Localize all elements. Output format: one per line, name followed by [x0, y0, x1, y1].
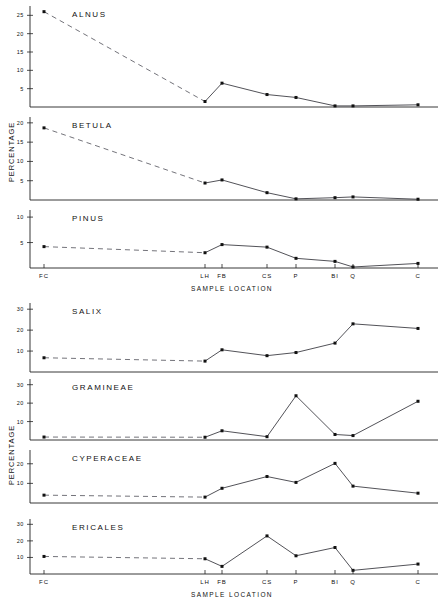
y-tick-label: 10	[17, 67, 24, 73]
data-point-marker	[204, 251, 207, 254]
data-point-marker	[417, 563, 420, 566]
x-tick-label: FB	[217, 579, 226, 585]
chart-canvas: 510152025ALNUS5101520BETULA510PINUS10203…	[0, 0, 442, 608]
data-point-marker	[43, 10, 46, 13]
panel-pinus: 510PINUS	[17, 210, 438, 268]
data-point-marker	[352, 195, 355, 198]
series-line	[205, 463, 418, 497]
data-point-marker	[352, 485, 355, 488]
y-tick-label: 20	[17, 538, 24, 544]
data-point-marker	[204, 496, 207, 499]
y-tick-label: 10	[17, 158, 24, 164]
panel-title: ERICALES	[72, 523, 124, 532]
panel-betula: 5101520BETULA	[17, 117, 438, 201]
data-point-marker	[266, 435, 269, 438]
data-point-marker	[266, 475, 269, 478]
data-point-marker	[43, 555, 46, 558]
y-tick-label: 5	[20, 86, 24, 92]
x-tick-label: BI	[331, 579, 338, 585]
y-tick-label: 10	[17, 348, 24, 354]
data-point-marker	[334, 104, 337, 107]
data-point-marker	[417, 327, 420, 330]
y-tick-label: 30	[17, 382, 24, 388]
x-tick-label: FC	[39, 273, 49, 279]
panel-ericales: 102030ERICALES	[17, 519, 438, 574]
data-point-marker	[352, 322, 355, 325]
data-point-marker	[43, 436, 46, 439]
data-point-marker	[204, 360, 207, 363]
panel-gramineae: 102030GRAMINEAE	[17, 379, 438, 440]
series-dashed-segment	[44, 358, 205, 361]
data-point-marker	[266, 246, 269, 249]
x-tick-label: Q	[350, 579, 356, 585]
series-dashed-segment	[44, 495, 205, 497]
x-axis-title: SAMPLE LOCATION	[191, 591, 273, 598]
data-point-marker	[295, 96, 298, 99]
data-point-marker	[417, 400, 420, 403]
y-tick-label: 10	[17, 419, 24, 425]
panel-title: SALIX	[72, 307, 103, 316]
data-point-marker	[266, 191, 269, 194]
series-line	[205, 245, 418, 267]
y-tick-label: 20	[17, 31, 24, 37]
y-tick-label: 15	[17, 49, 24, 55]
data-point-marker	[334, 433, 337, 436]
data-point-marker	[334, 462, 337, 465]
data-point-marker	[334, 546, 337, 549]
series-dashed-segment	[44, 247, 205, 253]
data-point-marker	[295, 197, 298, 200]
data-point-marker	[266, 93, 269, 96]
data-point-marker	[221, 82, 224, 85]
data-point-marker	[221, 243, 224, 246]
data-point-marker	[295, 351, 298, 354]
data-point-marker	[204, 436, 207, 439]
x-tick-label: LH	[200, 273, 209, 279]
x-tick-label: C	[415, 273, 420, 279]
x-tick-label: Q	[350, 273, 356, 279]
data-point-marker	[295, 481, 298, 484]
x-axis-title: SAMPLE LOCATION	[191, 285, 273, 292]
x-tick-label: CS	[262, 273, 272, 279]
panel-salix: 102030SALIX	[17, 303, 438, 372]
data-point-marker	[334, 342, 337, 345]
data-point-marker	[417, 198, 420, 201]
series-line	[205, 324, 418, 361]
data-point-marker	[221, 178, 224, 181]
data-point-marker	[266, 534, 269, 537]
y-tick-label: 10	[17, 480, 24, 486]
x-tick-label: FC	[39, 579, 49, 585]
data-point-marker	[221, 429, 224, 432]
data-point-marker	[295, 394, 298, 397]
x-tick-label: CS	[262, 579, 272, 585]
data-point-marker	[334, 260, 337, 263]
data-point-marker	[295, 257, 298, 260]
panel-title: ALNUS	[72, 10, 107, 19]
data-point-marker	[221, 487, 224, 490]
y-axis-title: PERCENTAGE	[7, 425, 16, 485]
series-dashed-segment	[44, 128, 205, 183]
y-tick-label: 30	[17, 521, 24, 527]
data-point-marker	[266, 354, 269, 357]
y-axis-title: PERCENTAGE	[7, 122, 16, 182]
data-point-marker	[221, 348, 224, 351]
panel-alnus: 510152025ALNUS	[17, 6, 438, 107]
data-point-marker	[43, 126, 46, 129]
data-point-marker	[204, 557, 207, 560]
x-tick-label: BI	[331, 273, 338, 279]
data-point-marker	[352, 434, 355, 437]
data-point-marker	[417, 492, 420, 495]
series-dashed-segment	[44, 12, 205, 102]
y-tick-label: 20	[17, 327, 24, 333]
panel-cyperaceae: 1020CYPERACEAE	[17, 450, 438, 503]
series-line	[205, 83, 418, 106]
x-tick-label: LH	[200, 579, 209, 585]
y-tick-label: 10	[17, 214, 24, 220]
y-tick-label: 5	[20, 240, 24, 246]
y-tick-label: 10	[17, 554, 24, 560]
y-tick-label: 20	[17, 120, 24, 126]
y-tick-label: 5	[20, 178, 24, 184]
panel-title: GRAMINEAE	[72, 383, 134, 392]
x-tick-label: C	[415, 579, 420, 585]
series-dashed-segment	[44, 556, 205, 558]
x-tick-label: P	[294, 579, 299, 585]
